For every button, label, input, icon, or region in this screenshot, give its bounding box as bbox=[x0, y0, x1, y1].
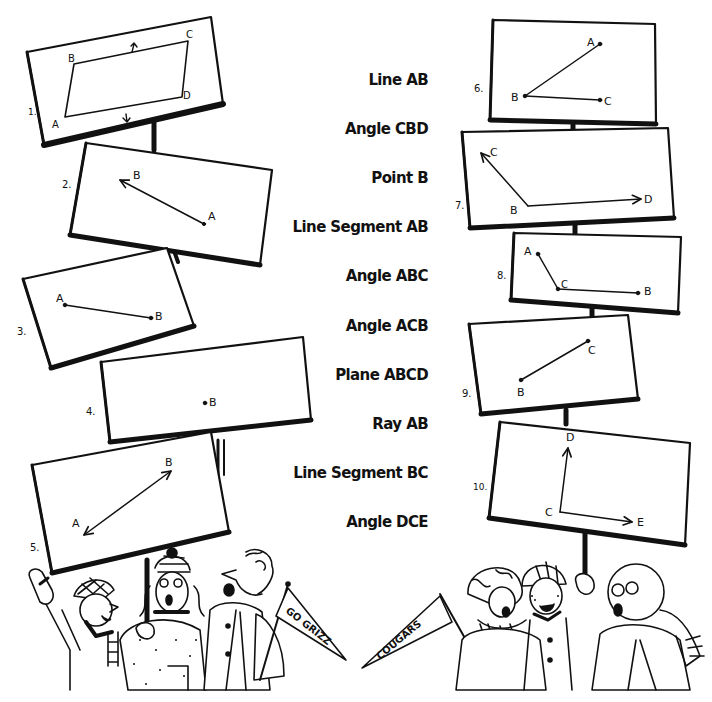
svg-text:B: B bbox=[644, 285, 652, 298]
svg-text:C: C bbox=[604, 95, 612, 108]
svg-text:C: C bbox=[545, 506, 553, 519]
sign-6-angle-abc: A B C 6. bbox=[474, 20, 656, 124]
term-angle-abc: Angle ABC bbox=[346, 267, 428, 285]
sign-3-segment-ab: A B 3. bbox=[17, 248, 194, 368]
svg-text:B: B bbox=[511, 91, 519, 104]
sign-1-plane-abcd: A B C D 1. bbox=[27, 17, 223, 145]
svg-text:A: A bbox=[587, 36, 595, 49]
svg-text:C: C bbox=[588, 344, 596, 357]
svg-text:B: B bbox=[165, 456, 173, 469]
sign-8-angle-acb: A C B 8. bbox=[497, 233, 681, 313]
svg-text:D: D bbox=[183, 90, 191, 101]
term-line-segment-ab: Line Segment AB bbox=[293, 218, 428, 236]
svg-text:C: C bbox=[561, 279, 568, 290]
svg-text:C: C bbox=[186, 29, 193, 40]
svg-text:A: A bbox=[208, 210, 216, 223]
svg-text:B: B bbox=[155, 310, 163, 323]
sign-5-line-ab: A B 5. bbox=[30, 432, 229, 573]
svg-text:A: A bbox=[524, 245, 532, 258]
term-ray-ab: Ray AB bbox=[372, 415, 428, 433]
sign-1-number: 1. bbox=[28, 107, 37, 117]
term-angle-acb: Angle ACB bbox=[346, 317, 428, 335]
svg-text:8.: 8. bbox=[497, 270, 507, 281]
svg-text:B: B bbox=[510, 204, 518, 217]
svg-text:3.: 3. bbox=[17, 326, 27, 337]
svg-text:E: E bbox=[637, 516, 644, 529]
geometry-matching-worksheet: A B C D 1. A B 2. bbox=[0, 0, 712, 702]
term-plane-abcd: Plane ABCD bbox=[335, 366, 428, 384]
term-line-segment-bc: Line Segment BC bbox=[293, 464, 428, 482]
term-point-b: Point B bbox=[371, 169, 428, 187]
signposts-illustration: A B C D 1. A B 2. bbox=[0, 0, 712, 702]
svg-text:B: B bbox=[133, 169, 141, 182]
svg-text:2.: 2. bbox=[62, 179, 72, 190]
sign-2-ray-ab: A B 2. bbox=[62, 143, 272, 265]
svg-text:9.: 9. bbox=[462, 388, 472, 399]
svg-text:10.: 10. bbox=[473, 482, 487, 492]
svg-text:B: B bbox=[68, 53, 75, 64]
svg-text:6.: 6. bbox=[474, 83, 484, 94]
svg-text:5.: 5. bbox=[30, 542, 40, 553]
svg-text:B: B bbox=[209, 396, 217, 409]
svg-text:B: B bbox=[517, 386, 525, 399]
svg-text:7.: 7. bbox=[455, 200, 465, 211]
term-angle-dce: Angle DCE bbox=[346, 513, 428, 531]
svg-text:A: A bbox=[72, 517, 80, 530]
svg-text:C: C bbox=[490, 146, 498, 159]
svg-text:4.: 4. bbox=[86, 406, 96, 417]
sign-10-angle-dce: D C E 10. bbox=[473, 422, 690, 545]
svg-text:A: A bbox=[56, 292, 64, 305]
svg-text:D: D bbox=[566, 431, 574, 444]
sign-4-point-b: B 4. bbox=[86, 337, 311, 442]
term-angle-cbd: Angle CBD bbox=[345, 120, 428, 138]
sign-9-segment-bc: B C 9. bbox=[462, 315, 638, 414]
svg-text:A: A bbox=[52, 119, 59, 130]
term-line-ab: Line AB bbox=[368, 71, 428, 89]
svg-text:D: D bbox=[644, 193, 652, 206]
sign-7-angle-cbd: C B D 7. bbox=[455, 128, 674, 228]
